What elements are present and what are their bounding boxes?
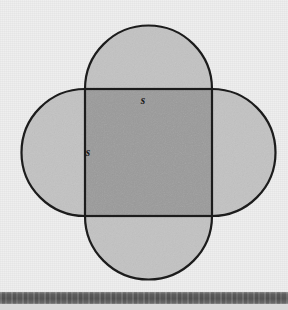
bottom-dark-band: [0, 292, 288, 304]
side-label-top: s: [140, 94, 146, 106]
lobe-right-icon: [212, 89, 276, 216]
bottom-band-grain: [0, 292, 288, 304]
lobe-left-icon: [21, 89, 85, 216]
side-label-left: s: [85, 146, 91, 158]
lobe-bottom-icon: [85, 216, 212, 280]
figure-page: s s: [0, 0, 288, 310]
quatrefoil-figure: s s: [0, 0, 288, 310]
inner-square-fill: [85, 89, 212, 216]
bottom-light-strip: [0, 304, 288, 310]
lobe-top-icon: [85, 26, 212, 89]
